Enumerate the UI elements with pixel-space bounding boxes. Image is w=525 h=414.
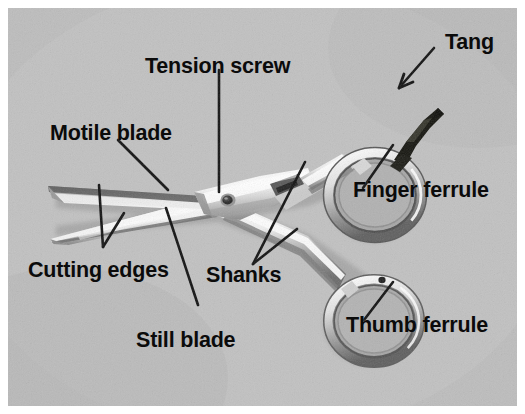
- figure-page: Tang Tension screw Motile blade Finger f…: [0, 0, 525, 414]
- label-shanks: Shanks: [206, 265, 281, 287]
- tension-screw-part: [220, 193, 235, 206]
- label-cutting-edges: Cutting edges: [28, 260, 169, 282]
- label-finger-ferrule: Finger ferrule: [353, 180, 489, 202]
- label-thumb-ferrule: Thumb ferrule: [346, 315, 488, 337]
- label-tang: Tang: [445, 32, 494, 54]
- label-still-blade: Still blade: [136, 330, 235, 352]
- photo-frame: Tang Tension screw Motile blade Finger f…: [8, 8, 517, 406]
- label-motile-blade: Motile blade: [50, 123, 172, 145]
- thumb-ferrule-pin: [378, 277, 385, 283]
- label-tension-screw: Tension screw: [145, 56, 290, 78]
